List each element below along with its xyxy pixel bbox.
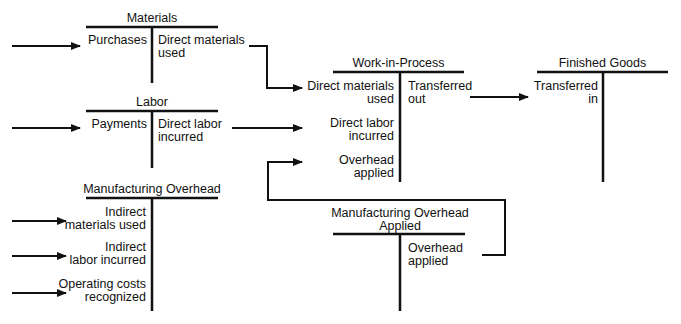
materials-title: Materials: [86, 12, 218, 25]
wip-debit-oh-2: applied: [300, 167, 394, 180]
wip-title: Work-in-Process: [333, 57, 464, 70]
materials-credit-dm-used-2: used: [158, 47, 185, 60]
wip-credit-transferred-2: out: [408, 93, 425, 106]
wip-debit-dl-2: incurred: [300, 130, 394, 143]
labor-debit-payments: Payments: [80, 118, 147, 131]
moh-title: Manufacturing Overhead: [76, 183, 228, 196]
wip-debit-dm-2: used: [300, 93, 394, 106]
moh-debit-indirect-mat-2: materials used: [50, 219, 146, 232]
labor-title: Labor: [86, 96, 218, 109]
fg-debit-transferred-1: Transferred: [520, 80, 598, 93]
fg-title: Finished Goods: [537, 57, 668, 70]
fg-debit-transferred-2: in: [520, 93, 598, 106]
moha-title-2: Applied: [320, 220, 480, 233]
materials-debit-purchases: Purchases: [80, 34, 147, 47]
moha-credit-oh-2: applied: [408, 255, 448, 268]
labor-credit-dl-2: incurred: [158, 131, 203, 144]
moh-debit-indirect-labor-2: labor incurred: [50, 254, 146, 267]
moh-debit-opcost-2: recognized: [50, 291, 146, 304]
